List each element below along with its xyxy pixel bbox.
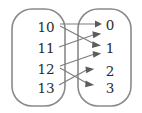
codomain-label-3: 3: [106, 80, 115, 96]
domain-label-11: 11: [37, 40, 54, 56]
codomain-label-2: 2: [106, 63, 115, 79]
codomain-label-0: 0: [106, 17, 115, 33]
domain-label-12: 12: [37, 61, 54, 77]
edge-10-to-0: [60, 21, 102, 28]
diagram-canvas: 10 11 12 13 0 1 2 3: [0, 0, 142, 113]
domain-label-10: 10: [37, 19, 54, 35]
domain-label-13: 13: [37, 80, 54, 96]
codomain-label-1: 1: [106, 40, 115, 56]
mapping-diagram-figure: 10 11 12 13 0 1 2 3: [0, 0, 142, 113]
edge-12-to-1: [60, 51, 101, 66]
